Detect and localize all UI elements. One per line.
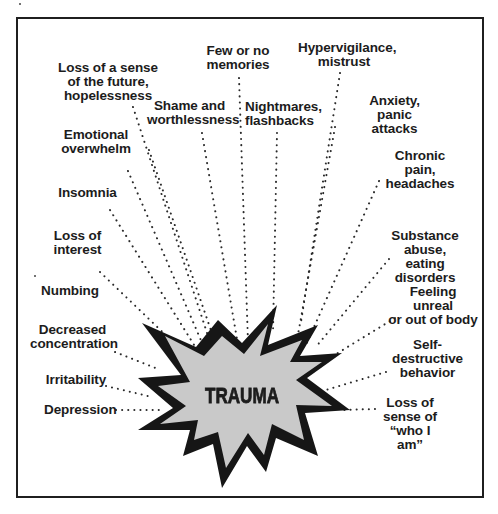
symptom-loss-of-interest: Loss of interest <box>50 229 105 257</box>
symptom-feeling-unreal: Feeling unreal or out of body <box>388 285 478 327</box>
connector-hopelessness <box>133 107 210 342</box>
connector-chronic-pain <box>306 181 379 345</box>
symptom-irritability: Irritability <box>42 373 110 387</box>
symptom-numbing: Numbing <box>40 284 100 298</box>
symptom-chronic-pain: Chronic pain, headaches <box>380 149 460 191</box>
symptom-loss-of-self: Loss of sense of “who I am” <box>375 396 445 452</box>
symptom-depression: Depression <box>44 403 112 417</box>
symptom-hopelessness: Loss of a sense of the future, hopelessn… <box>53 61 163 103</box>
symptom-substance-abuse: Substance abuse, eating disorders <box>375 229 475 285</box>
symptom-few-memories: Few or no memories <box>203 44 273 72</box>
connector-emotional-overwhelm <box>149 150 216 345</box>
symptom-hypervigilance: Hypervigilance, mistrust <box>298 41 390 69</box>
symptom-decreased-concentration: Decreased concentration <box>30 323 115 351</box>
symptom-anxiety: Anxiety, panic attacks <box>352 94 437 136</box>
symptom-insomnia: Insomnia <box>55 186 120 200</box>
connector-nightmares <box>273 133 277 332</box>
connector-shame <box>202 133 238 345</box>
connector-insomnia <box>128 171 203 345</box>
connector-decreased-concentration <box>115 352 158 369</box>
connector-loss-of-interest <box>110 210 196 348</box>
connector-irritability <box>106 386 152 397</box>
trauma-label: TRAUMA <box>205 383 279 408</box>
symptom-self-destructive: Self- destructive behavior <box>390 338 465 380</box>
connector-anxiety <box>297 127 335 340</box>
symptom-shame: Shame and worthlessness <box>147 99 232 127</box>
symptom-emotional-overwhelm: Emotional overwhelm <box>56 128 136 156</box>
connector-self-destructive <box>316 372 386 393</box>
symptom-nightmares: Nightmares, flashbacks <box>245 100 313 128</box>
